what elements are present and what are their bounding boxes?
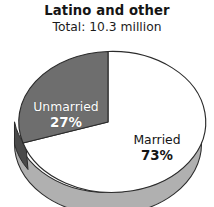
chart-header: Latino and other Total: 10.3 million — [0, 3, 214, 35]
pie-chart-figure: Latino and other Total: 10.3 million Unm… — [0, 0, 214, 207]
pie-plot-area: Unmarried 27% Married 73% — [0, 38, 214, 207]
chart-subtitle-total: Total: 10.3 million — [0, 20, 214, 35]
pie-svg — [0, 38, 214, 207]
chart-title: Latino and other — [0, 3, 214, 18]
